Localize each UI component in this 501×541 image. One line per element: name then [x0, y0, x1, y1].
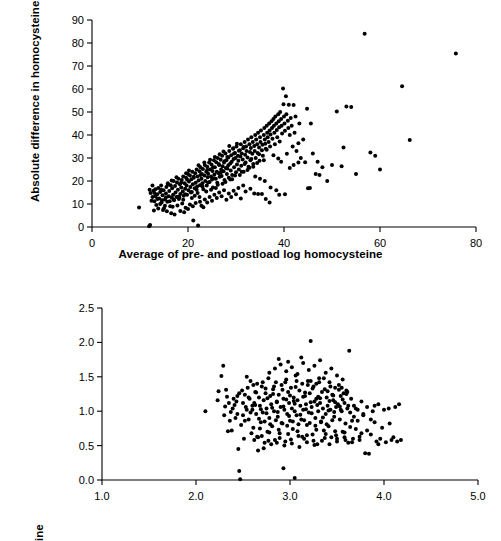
data-point [277, 357, 281, 361]
data-point [367, 452, 371, 456]
data-point [224, 388, 228, 392]
data-point [288, 133, 292, 137]
data-point [305, 440, 309, 444]
y-tick-label: 30 [72, 152, 84, 164]
data-point [185, 184, 189, 188]
data-point [156, 207, 160, 211]
data-point [349, 105, 353, 109]
data-point [201, 167, 205, 171]
data-point [269, 442, 273, 446]
data-point [204, 190, 208, 194]
data-point [303, 160, 307, 164]
data-point [275, 400, 279, 404]
data-point [346, 404, 350, 408]
data-point [296, 141, 300, 145]
data-point [378, 168, 382, 172]
data-point [224, 198, 228, 202]
data-point [292, 399, 296, 403]
data-point [301, 395, 305, 399]
data-point [293, 409, 297, 413]
data-point [369, 417, 373, 421]
data-point [270, 406, 274, 410]
data-point [214, 186, 218, 190]
data-point [286, 360, 290, 364]
data-point [242, 145, 246, 149]
data-point [228, 419, 232, 423]
data-point [331, 393, 335, 397]
data-point [285, 424, 289, 428]
y-tick-label: 1.0 [79, 405, 94, 417]
data-point [282, 102, 286, 106]
data-point [165, 209, 169, 213]
data-point [219, 158, 223, 162]
data-point [177, 196, 181, 200]
data-point [279, 362, 283, 366]
data-point [293, 131, 297, 135]
data-point [283, 129, 287, 133]
data-point [242, 437, 246, 441]
data-point [297, 122, 301, 126]
data-point [202, 173, 206, 177]
data-point [290, 124, 294, 128]
data-point [265, 406, 269, 410]
x-tick-label: 5.0 [470, 490, 485, 502]
data-point [289, 386, 293, 390]
data-point [248, 187, 252, 191]
data-point [237, 391, 241, 395]
y-tick-label: 2.5 [79, 302, 94, 314]
data-point [249, 431, 253, 435]
data-point [206, 180, 210, 184]
data-point [221, 364, 225, 368]
data-point [275, 135, 279, 139]
data-point [208, 195, 212, 199]
x-tick-label: 4.0 [376, 490, 391, 502]
data-point [339, 408, 343, 412]
data-point [296, 434, 300, 438]
data-point [321, 415, 325, 419]
data-point [231, 406, 235, 410]
data-point [316, 409, 320, 413]
data-point [180, 202, 184, 206]
data-point [395, 439, 399, 443]
data-point [301, 361, 305, 365]
data-point [219, 171, 223, 175]
data-point [232, 165, 236, 169]
data-point [316, 160, 320, 164]
data-point [324, 412, 328, 416]
data-point [188, 202, 192, 206]
data-point [304, 407, 308, 411]
data-point [163, 204, 167, 208]
data-point [329, 367, 333, 371]
data-point [260, 434, 264, 438]
data-point [150, 184, 154, 188]
data-point [363, 32, 367, 36]
data-point [196, 223, 200, 227]
data-point [241, 401, 245, 405]
data-point [333, 386, 337, 390]
chart-panel-bottom: 0.00.51.01.52.02.51.02.03.04.05.0 Relati… [0, 269, 501, 541]
data-point [184, 206, 188, 210]
data-point [198, 195, 202, 199]
data-point [208, 158, 212, 162]
data-point [318, 173, 322, 177]
data-point [292, 103, 296, 107]
data-point [277, 428, 281, 432]
data-point [313, 416, 317, 420]
data-point [343, 438, 347, 442]
data-point [301, 138, 305, 142]
data-point [376, 402, 380, 406]
data-point [252, 191, 256, 195]
data-point [330, 163, 334, 167]
data-point [276, 156, 280, 160]
data-point [256, 192, 260, 196]
data-point [268, 422, 272, 426]
data-point [244, 190, 248, 194]
data-point [247, 417, 251, 421]
data-point [137, 205, 141, 209]
data-point [241, 157, 245, 161]
data-point [160, 198, 164, 202]
data-point [274, 418, 278, 422]
data-point [267, 371, 271, 375]
y-tick-label: 1.5 [79, 371, 94, 383]
data-point [288, 166, 292, 170]
